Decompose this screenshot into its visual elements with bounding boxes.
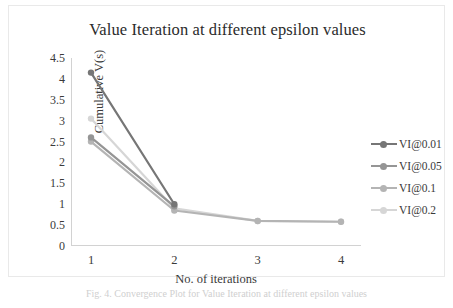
legend-marker-icon [380, 185, 387, 192]
y-axis-tick-label: 0.5 [39, 218, 65, 233]
figure-frame: Value Iteration at different epsilon val… [8, 5, 445, 277]
x-axis-tick-label: 1 [88, 253, 94, 268]
x-axis-tick-label: 3 [255, 253, 261, 268]
data-point-marker [254, 218, 260, 224]
legend-swatch [371, 204, 397, 216]
legend-item[interactable]: VI@0.2 [371, 199, 451, 221]
figure-caption: Fig. 4. Convergence Plot for Value Itera… [8, 288, 445, 299]
x-axis-tick-label: 4 [338, 253, 344, 268]
series-line [91, 142, 341, 222]
y-axis-tick-label: 0 [39, 239, 65, 254]
legend-marker-icon [380, 141, 387, 148]
y-axis-tick-label: 4.5 [39, 51, 65, 66]
chart-legend: VI@0.01VI@0.05VI@0.1VI@0.2 [371, 133, 451, 221]
legend-label: VI@0.05 [399, 160, 442, 172]
x-axis-title: No. of iterations [71, 272, 361, 287]
y-axis-tick-label: 1.5 [39, 176, 65, 191]
legend-swatch [371, 160, 397, 172]
legend-label: VI@0.01 [399, 138, 442, 150]
legend-marker-icon [380, 207, 387, 214]
series-line [91, 137, 174, 206]
legend-label: VI@0.2 [399, 204, 436, 216]
legend-item[interactable]: VI@0.05 [371, 155, 451, 177]
legend-swatch [371, 138, 397, 150]
data-point-marker [338, 219, 344, 225]
y-axis-tick-label: 3 [39, 113, 65, 128]
legend-label: VI@0.1 [399, 182, 436, 194]
chart-title: Value Iteration at different epsilon val… [9, 20, 446, 40]
y-axis-tick-label: 1 [39, 197, 65, 212]
data-point-marker [88, 69, 94, 75]
y-axis-tick-label: 2.5 [39, 134, 65, 149]
legend-item[interactable]: VI@0.1 [371, 177, 451, 199]
data-point-marker [171, 201, 177, 207]
series-plot [71, 58, 361, 246]
x-axis-tick-label: 2 [171, 253, 177, 268]
y-axis-tick-label: 3.5 [39, 92, 65, 107]
y-axis-tick-label: 4 [39, 71, 65, 86]
legend-item[interactable]: VI@0.01 [371, 133, 451, 155]
plot-area: 00.511.522.533.544.5 1234 Cumulative V(s… [71, 58, 361, 246]
data-point-marker [88, 134, 94, 140]
data-point-marker [88, 115, 94, 121]
legend-marker-icon [380, 163, 387, 170]
legend-swatch [371, 182, 397, 194]
series-line [91, 119, 341, 222]
y-axis-tick-label: 2 [39, 155, 65, 170]
series-line [91, 73, 174, 205]
